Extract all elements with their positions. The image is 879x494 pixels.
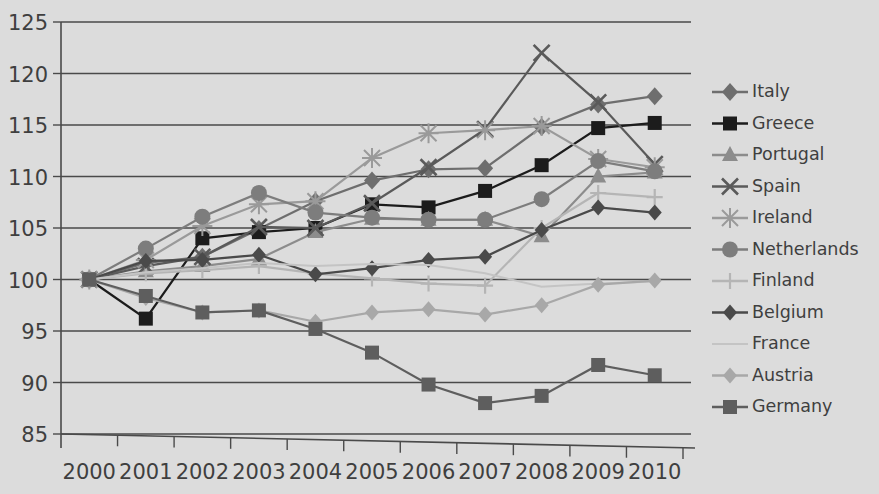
y-tick-label: 105 xyxy=(8,217,48,241)
x-tick-label: 2002 xyxy=(176,460,229,484)
legend-item-ireland[interactable]: Ireland xyxy=(712,207,813,228)
legend-item-greece[interactable]: Greece xyxy=(712,113,814,133)
data-point xyxy=(139,312,153,326)
legend-label: Netherlands xyxy=(752,239,859,259)
data-point xyxy=(534,191,550,207)
data-point xyxy=(308,322,322,336)
data-point xyxy=(421,276,437,292)
legend-label: Austria xyxy=(752,365,814,385)
y-tick-label: 125 xyxy=(8,11,48,35)
y-tick-label: 115 xyxy=(8,114,48,138)
data-point xyxy=(478,184,492,198)
legend-marker-plus-icon xyxy=(722,273,738,289)
legend-label: Spain xyxy=(752,176,801,196)
data-point xyxy=(365,346,379,360)
legend-item-portugal[interactable]: Portugal xyxy=(712,144,824,164)
data-point xyxy=(648,116,662,130)
y-tick-label: 85 xyxy=(21,423,48,447)
y-tick-label: 110 xyxy=(8,166,48,190)
data-point xyxy=(362,148,382,168)
x-tick-label: 2001 xyxy=(119,460,172,484)
legend-marker-diamond-small-icon xyxy=(723,305,737,321)
y-tick-label: 100 xyxy=(8,269,48,293)
x-axis: 2000200120022003200420052006200720082009… xyxy=(61,434,695,484)
legend-label: Italy xyxy=(752,81,790,101)
data-point xyxy=(478,396,492,410)
data-point xyxy=(82,273,96,287)
legend-item-france[interactable]: France xyxy=(712,333,810,353)
data-point xyxy=(591,199,605,215)
y-tick-label: 90 xyxy=(21,372,48,396)
data-point xyxy=(478,307,492,323)
x-axis-line xyxy=(61,434,695,448)
data-point xyxy=(194,209,210,225)
data-point xyxy=(591,121,605,135)
legend-item-spain[interactable]: Spain xyxy=(712,176,801,196)
legend-label: Belgium xyxy=(752,302,824,322)
legend-item-italy[interactable]: Italy xyxy=(712,81,790,101)
x-tick-label: 2003 xyxy=(232,460,285,484)
legend-marker-square-icon xyxy=(723,117,737,131)
x-tick-label: 2008 xyxy=(515,460,568,484)
series-italy xyxy=(81,87,662,288)
legend: ItalyGreecePortugalSpainIrelandNetherlan… xyxy=(712,81,859,416)
legend-item-austria[interactable]: Austria xyxy=(712,365,814,385)
data-point xyxy=(535,158,549,172)
chart-container: 859095100105110115120125 200020012002200… xyxy=(0,0,879,494)
line-chart: 859095100105110115120125 200020012002200… xyxy=(0,0,879,494)
legend-item-netherlands[interactable]: Netherlands xyxy=(712,239,859,259)
data-point xyxy=(532,116,552,136)
x-tick-label: 2009 xyxy=(571,460,624,484)
x-tick-label: 2005 xyxy=(345,460,398,484)
grid-layer xyxy=(61,22,691,434)
legend-item-germany[interactable]: Germany xyxy=(712,396,832,416)
legend-marker-diamond-icon xyxy=(722,83,738,101)
legend-marker-circle-icon xyxy=(722,242,738,258)
legend-marker-square-icon xyxy=(723,400,737,414)
data-point xyxy=(477,159,493,177)
data-point xyxy=(647,87,663,105)
legend-label: Ireland xyxy=(752,207,813,227)
x-tick-label: 2004 xyxy=(289,460,342,484)
data-point xyxy=(307,205,323,221)
data-point xyxy=(534,45,550,61)
legend-label: Germany xyxy=(752,396,832,416)
data-point xyxy=(478,249,492,265)
y-tick-label: 120 xyxy=(8,63,48,87)
data-point xyxy=(422,378,436,392)
legend-label: Finland xyxy=(752,270,815,290)
data-point xyxy=(648,273,662,289)
x-tick-label: 2007 xyxy=(458,460,511,484)
legend-label: Greece xyxy=(752,113,814,133)
legend-item-belgium[interactable]: Belgium xyxy=(712,302,824,322)
data-point xyxy=(590,185,606,201)
legend-marker-triangle-icon xyxy=(722,146,738,161)
data-point xyxy=(422,301,436,317)
legend-label: France xyxy=(752,333,810,353)
legend-label: Portugal xyxy=(752,144,824,164)
data-point xyxy=(195,305,209,319)
data-point xyxy=(535,389,549,403)
data-point xyxy=(364,172,380,190)
data-point xyxy=(421,212,437,228)
x-tick-label: 2006 xyxy=(402,460,455,484)
data-point xyxy=(419,123,439,143)
legend-item-finland[interactable]: Finland xyxy=(712,270,815,290)
data-point xyxy=(365,260,379,276)
data-point xyxy=(591,358,605,372)
data-point xyxy=(365,304,379,320)
data-point xyxy=(139,289,153,303)
data-point xyxy=(477,212,493,228)
data-point xyxy=(535,297,549,313)
series-line xyxy=(89,280,654,404)
x-tick-label: 2010 xyxy=(628,460,681,484)
y-tick-label: 95 xyxy=(21,320,48,344)
data-point xyxy=(648,205,662,221)
data-point xyxy=(251,185,267,201)
legend-marker-diamond-small-icon xyxy=(723,368,737,384)
data-point xyxy=(647,163,663,179)
data-point xyxy=(475,120,495,140)
data-point xyxy=(364,210,380,226)
legend-marker-asterisk-icon xyxy=(720,208,740,228)
data-point xyxy=(647,189,663,205)
